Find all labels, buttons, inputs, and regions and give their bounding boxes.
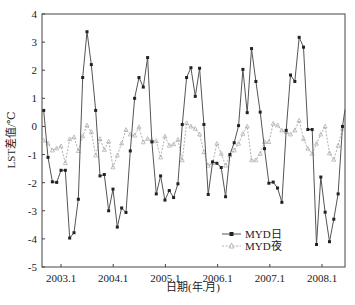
x-axis-label: 日期(年.月) (166, 280, 220, 294)
series-myd-night (42, 118, 345, 168)
x-tick-label: 2004.1 (98, 272, 128, 284)
x-tick-label: 2003.1 (46, 272, 76, 284)
line-chart: 43210-1-2-3-4-5 2003.12004.12005.12006.1… (0, 0, 355, 305)
y-tick-label: 2 (32, 64, 38, 76)
y-tick-label: 4 (32, 8, 38, 20)
x-tick-label: 2008.1 (307, 272, 337, 284)
legend-day-marker-icon (230, 232, 234, 236)
legend-day-label: MYD日 (245, 228, 282, 240)
y-tick-label: 0 (32, 120, 38, 132)
y-tick-label: -5 (28, 261, 38, 273)
plot-frame (42, 14, 345, 267)
y-tick-label: -2 (28, 177, 37, 189)
x-tick-label: 2007.1 (255, 272, 285, 284)
y-tick-label: 1 (32, 92, 38, 104)
y-axis-label: LST差值/℃ (4, 112, 17, 169)
y-tick-label: 3 (32, 36, 38, 48)
y-tick-label: -4 (28, 233, 38, 245)
legend: MYD日 MYD夜 (222, 228, 282, 252)
legend-night-label: MYD夜 (245, 239, 282, 252)
y-tick-label: -3 (28, 205, 38, 217)
y-tick-label: -1 (28, 149, 37, 161)
series-myd-day (42, 30, 345, 246)
